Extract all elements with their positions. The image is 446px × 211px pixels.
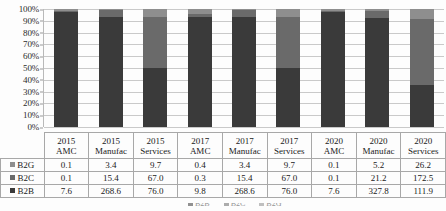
table-corner-cell (1, 133, 45, 159)
legend-swatch-icon (10, 188, 15, 193)
table-row: B2G0.13.49.70.43.49.70.15.226.2 (1, 159, 446, 172)
legend-label: B2G (17, 160, 34, 170)
table-column-header-line: 2017 (268, 136, 312, 146)
table-cell: 9.8 (178, 185, 223, 198)
bar-segment-b2b[interactable] (232, 17, 256, 127)
table-cell: 9.7 (267, 159, 312, 172)
bar-segment-b2b[interactable] (143, 68, 167, 127)
table-cell: 15.4 (222, 172, 267, 185)
table-column-header: 2015AMC (44, 133, 89, 159)
stacked-bar[interactable] (276, 9, 300, 127)
table-cell: 111.9 (401, 185, 446, 198)
bar-segment-b2c[interactable] (410, 19, 434, 85)
table-column-header: 2020Manufac (356, 133, 401, 159)
table-cell: 3.4 (222, 159, 267, 172)
table-cell: 0.1 (44, 172, 89, 185)
table-row: B2B7.6268.676.09.8268.676.07.6327.8111.9 (1, 185, 446, 198)
table-column-header-line: 2017 (178, 136, 222, 146)
bar-segment-b2b[interactable] (321, 12, 345, 127)
table-cell: 172.5 (401, 172, 446, 185)
y-axis-tick-label: 20% (23, 99, 39, 108)
table-cell: 0.3 (178, 172, 223, 185)
table-body: B2G0.13.49.70.43.49.70.15.226.2B2C0.115.… (1, 159, 446, 198)
stacked-bar[interactable] (232, 9, 256, 127)
stacked-bar[interactable] (54, 9, 78, 127)
legend-item-label: B2G (266, 203, 281, 208)
y-axis-tick-label: 70% (23, 40, 39, 49)
bar-segment-b2b[interactable] (410, 85, 434, 128)
bar-segment-b2g[interactable] (410, 9, 434, 19)
stacked-bar[interactable] (99, 9, 123, 127)
legend-swatch-icon (10, 175, 15, 180)
bar-slot (44, 9, 88, 127)
table-cell: 268.6 (89, 185, 134, 198)
legend-swatch-icon (224, 203, 229, 206)
table-header-row: 2015AMC2015Manufac2015Services2017AMC201… (1, 133, 446, 159)
y-axis-tick-label: 0% (27, 123, 39, 132)
table-cell: 9.7 (133, 159, 178, 172)
stacked-bar-chart: 100%90%80%70%60%50%40%30%20%10%0% 2015AM… (0, 0, 446, 211)
bar-segment-b2c[interactable] (276, 17, 300, 69)
bar-group (44, 9, 444, 127)
y-axis-tick-label: 30% (23, 87, 39, 96)
table-column-header-line: 2020 (357, 136, 401, 146)
table-column-header: 2017Manufac (222, 133, 267, 159)
bar-slot (133, 9, 177, 127)
stacked-bar[interactable] (143, 9, 167, 127)
bar-segment-b2b[interactable] (99, 17, 123, 127)
table-column-header-line: Services (268, 146, 312, 156)
legend-item-label: B2C (231, 203, 246, 208)
bar-slot (88, 9, 132, 127)
chart-legend: B2BB2CB2G (0, 203, 446, 211)
bar-segment-b2c[interactable] (365, 11, 389, 18)
bar-slot (177, 9, 221, 127)
y-axis-tick-label: 50% (23, 64, 39, 73)
table-column-header: 2017Services (267, 133, 312, 159)
legend-swatch-icon (188, 203, 193, 206)
table-column-header-line: 2015 (89, 136, 133, 146)
legend-label: B2C (17, 173, 34, 183)
table-row-legend-b2g: B2G (1, 159, 45, 172)
legend-item-b2g[interactable]: B2G (259, 203, 281, 208)
table-cell: 76.0 (267, 185, 312, 198)
stacked-bar[interactable] (321, 9, 345, 127)
bar-slot (355, 9, 399, 127)
table-column-header-line: 2020 (312, 136, 356, 146)
legend-item-b2b[interactable]: B2B (188, 203, 210, 208)
table-column-header: 2020Services (401, 133, 446, 159)
table-cell: 67.0 (267, 172, 312, 185)
legend-swatch-icon (259, 203, 264, 206)
table-cell: 7.6 (44, 185, 89, 198)
gridline (44, 127, 444, 128)
table-row-legend-b2c: B2C (1, 172, 45, 185)
stacked-bar[interactable] (410, 9, 434, 127)
table-column-header-line: 2015 (134, 136, 178, 146)
bar-slot (400, 9, 444, 127)
bar-slot (311, 9, 355, 127)
table-cell: 5.2 (356, 159, 401, 172)
stacked-bar[interactable] (188, 9, 212, 127)
table-cell: 0.4 (178, 159, 223, 172)
bar-segment-b2b[interactable] (54, 12, 78, 127)
legend-item-b2c[interactable]: B2C (224, 203, 246, 208)
table-cell: 327.8 (356, 185, 401, 198)
table-column-header-line: AMC (178, 146, 222, 156)
table-cell: 3.4 (89, 159, 134, 172)
table-cell: 7.6 (312, 185, 357, 198)
table-cell: 26.2 (401, 159, 446, 172)
table-column-header: 2017AMC (178, 133, 223, 159)
y-axis-tick-label: 100% (19, 5, 39, 14)
table-cell: 268.6 (222, 185, 267, 198)
table-row-legend-b2b: B2B (1, 185, 45, 198)
bar-segment-b2g[interactable] (143, 9, 167, 16)
bar-segment-b2b[interactable] (188, 17, 212, 127)
bar-segment-b2b[interactable] (276, 68, 300, 127)
table-cell: 15.4 (89, 172, 134, 185)
table-column-header-line: 2020 (401, 136, 445, 146)
legend-items: B2BB2CB2G (188, 203, 281, 208)
data-table: 2015AMC2015Manufac2015Services2017AMC201… (0, 132, 446, 198)
bar-segment-b2b[interactable] (365, 18, 389, 127)
bar-segment-b2c[interactable] (143, 17, 167, 69)
bar-segment-b2g[interactable] (276, 9, 300, 16)
stacked-bar[interactable] (365, 9, 389, 127)
